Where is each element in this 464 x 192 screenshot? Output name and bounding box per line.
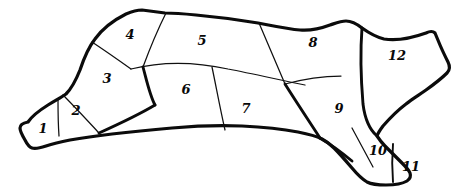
region-label-6: 6 bbox=[181, 83, 190, 96]
region-label-10: 10 bbox=[369, 144, 387, 157]
region-label-1: 1 bbox=[38, 122, 47, 135]
body-outline bbox=[20, 10, 449, 185]
region-label-3: 3 bbox=[102, 72, 111, 85]
region-label-8: 8 bbox=[308, 36, 317, 49]
region-label-2: 2 bbox=[71, 104, 80, 117]
region-label-4: 4 bbox=[125, 28, 134, 41]
region-label-11: 11 bbox=[402, 160, 420, 173]
cut-chart-diagram: 1 2 3 4 5 6 7 8 9 10 11 12 bbox=[0, 0, 464, 192]
region-label-12: 12 bbox=[388, 49, 406, 62]
cut-line-10-11 bbox=[392, 144, 393, 182]
region-label-9: 9 bbox=[334, 102, 343, 115]
region-label-5: 5 bbox=[197, 34, 206, 47]
diagram-canvas bbox=[0, 0, 464, 192]
region-label-7: 7 bbox=[241, 102, 250, 115]
